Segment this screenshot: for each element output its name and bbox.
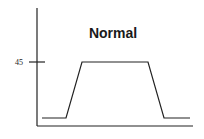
chart: Normal 45 xyxy=(0,0,204,139)
profile-line xyxy=(42,62,190,118)
chart-title: Normal xyxy=(89,25,137,41)
y-tick-label: 45 xyxy=(15,58,23,67)
